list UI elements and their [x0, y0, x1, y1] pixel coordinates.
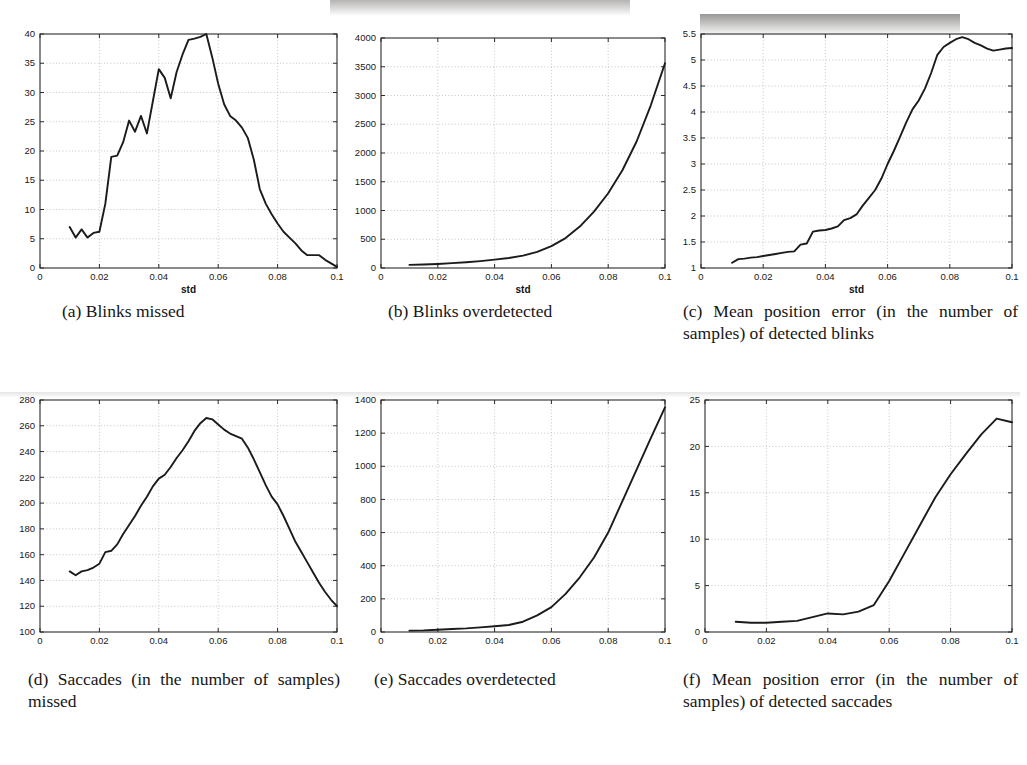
x-tick-label: 0: [378, 271, 383, 282]
x-tick-label: 0.06: [542, 271, 561, 282]
plot-c: 11.522.533.544.555.500.020.040.060.080.1…: [683, 20, 1027, 295]
y-tick-label: 35: [24, 57, 35, 68]
y-tick-label: 0: [371, 262, 376, 273]
y-tick-label: 1500: [355, 176, 376, 187]
y-tick-label: 4: [691, 106, 696, 117]
y-tick-label: 140: [19, 575, 35, 586]
y-tick-label: 1000: [355, 460, 376, 471]
x-tick-label: 0.08: [268, 271, 287, 282]
x-tick-label: 0: [698, 271, 703, 282]
y-tick-label: 1200: [355, 427, 376, 438]
x-tick-label: 0.02: [90, 271, 109, 282]
y-tick-label: 800: [360, 494, 376, 505]
x-tick-label: 0.08: [268, 635, 287, 644]
x-tick-label: 0.04: [485, 271, 504, 282]
y-tick-label: 5.5: [683, 28, 696, 39]
plot-a: 051015202530354000.020.040.060.080.1std: [0, 20, 345, 295]
y-tick-label: 3000: [355, 90, 376, 101]
panel-a: 051015202530354000.020.040.060.080.1std: [0, 20, 345, 300]
x-tick-label: 0.1: [1005, 635, 1018, 644]
y-tick-label: 25: [24, 116, 35, 127]
x-tick-label: 0.08: [599, 271, 618, 282]
panel-f: 051015202500.020.040.060.080.1std: [683, 388, 1027, 648]
panel-b: 0500100015002000250030003500400000.020.0…: [350, 20, 680, 300]
x-tick-label: 0.02: [429, 271, 448, 282]
panel-e: 020040060080010001200140000.020.040.060.…: [350, 388, 680, 648]
chart-f: 051015202500.020.040.060.080.1std: [683, 388, 1027, 644]
x-axis-label: std: [181, 284, 196, 295]
y-tick-label: 2500: [355, 118, 376, 129]
chart-c: 11.522.533.544.555.500.020.040.060.080.1…: [683, 20, 1027, 295]
x-tick-label: 0.02: [429, 635, 448, 644]
y-tick-label: 200: [360, 593, 376, 604]
y-tick-label: 5: [691, 54, 696, 65]
x-tick-label: 0.08: [941, 271, 960, 282]
data-series-line: [70, 34, 337, 267]
y-tick-label: 2: [691, 210, 696, 221]
y-tick-label: 3.5: [683, 132, 696, 143]
y-tick-label: 260: [19, 420, 35, 431]
y-tick-label: 5: [695, 580, 700, 591]
caption-b: (b) Blinks overdetected: [388, 300, 668, 322]
y-tick-label: 120: [19, 600, 35, 611]
figure-grid: 051015202530354000.020.040.060.080.1std …: [0, 0, 1027, 765]
y-tick-label: 4000: [355, 32, 376, 43]
plot-e: 020040060080010001200140000.020.040.060.…: [350, 388, 680, 644]
x-tick-label: 0.1: [330, 271, 343, 282]
x-tick-label: 0: [702, 635, 707, 644]
y-tick-label: 100: [19, 626, 35, 637]
y-tick-label: 4.5: [683, 80, 696, 91]
y-tick-label: 1000: [355, 205, 376, 216]
y-tick-label: 2000: [355, 147, 376, 158]
x-tick-label: 0.04: [485, 635, 504, 644]
x-tick-label: 0.06: [878, 271, 897, 282]
x-tick-label: 0.08: [599, 635, 618, 644]
y-tick-label: 200: [19, 497, 35, 508]
x-tick-label: 0.02: [754, 271, 773, 282]
x-tick-label: 0.04: [150, 635, 169, 644]
panel-d: 10012014016018020022024026028000.020.040…: [0, 388, 345, 648]
y-tick-label: 1400: [355, 394, 376, 405]
data-series-line: [70, 418, 337, 606]
x-tick-label: 0.1: [658, 271, 671, 282]
x-tick-label: 0.06: [880, 635, 899, 644]
y-tick-label: 30: [24, 87, 35, 98]
caption-c: (c) Mean position error (in the number o…: [683, 300, 1018, 344]
x-tick-label: 0.04: [150, 271, 169, 282]
y-tick-label: 3: [691, 158, 696, 169]
y-tick-label: 15: [24, 174, 35, 185]
y-tick-label: 0: [30, 262, 35, 273]
y-tick-label: 500: [360, 233, 376, 244]
x-tick-label: 0.06: [209, 271, 228, 282]
x-tick-label: 0.1: [1005, 271, 1018, 282]
x-tick-label: 0: [378, 635, 383, 644]
y-tick-label: 1.5: [683, 236, 696, 247]
x-tick-label: 0.06: [542, 635, 561, 644]
caption-d: (d) Saccades (in the number of samples) …: [28, 668, 340, 712]
y-tick-label: 5: [30, 233, 35, 244]
y-tick-label: 20: [24, 145, 35, 156]
y-tick-label: 600: [360, 527, 376, 538]
caption-e: (e) Saccades overdetected: [374, 668, 674, 690]
y-tick-label: 2.5: [683, 184, 696, 195]
x-tick-label: 0.06: [209, 635, 228, 644]
x-tick-label: 0: [37, 271, 42, 282]
x-tick-label: 0.1: [330, 635, 343, 644]
x-tick-label: 0.02: [757, 635, 776, 644]
chart-b: 0500100015002000250030003500400000.020.0…: [350, 20, 680, 295]
y-tick-label: 220: [19, 472, 35, 483]
y-tick-label: 10: [24, 204, 35, 215]
plot-d: 10012014016018020022024026028000.020.040…: [0, 388, 345, 644]
y-tick-label: 10: [689, 533, 700, 544]
caption-f: (f) Mean position error (in the number o…: [683, 668, 1018, 712]
data-series-line: [732, 37, 1012, 263]
plot-b: 0500100015002000250030003500400000.020.0…: [350, 20, 680, 295]
panel-c: 11.522.533.544.555.500.020.040.060.080.1…: [683, 20, 1027, 300]
x-axis-label: std: [849, 284, 864, 295]
y-tick-label: 3500: [355, 61, 376, 72]
x-tick-label: 0.02: [90, 635, 109, 644]
x-tick-label: 0.1: [658, 635, 671, 644]
y-tick-label: 160: [19, 549, 35, 560]
y-tick-label: 40: [24, 28, 35, 39]
chart-e: 020040060080010001200140000.020.040.060.…: [350, 388, 680, 644]
